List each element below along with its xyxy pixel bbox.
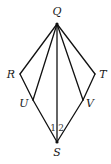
vertex-dot-Q [55, 22, 58, 25]
segment-US [33, 100, 57, 142]
point-label-S: S [53, 146, 61, 159]
point-label-U: U [19, 97, 29, 110]
segment-QR [20, 24, 57, 74]
angle-label-1: 1 [50, 123, 56, 133]
angle-label-2: 2 [58, 123, 64, 133]
point-label-R: R [6, 68, 15, 81]
segment-QV [57, 24, 83, 100]
geometry-diagram: QRTUVS 12 [0, 0, 111, 164]
point-label-T: T [99, 68, 108, 81]
segment-QT [57, 24, 95, 74]
point-label-V: V [86, 97, 95, 110]
point-label-Q: Q [52, 5, 61, 18]
segment-VS [57, 100, 83, 142]
vertex-dot-S [55, 140, 58, 143]
segment-QU [33, 24, 57, 100]
